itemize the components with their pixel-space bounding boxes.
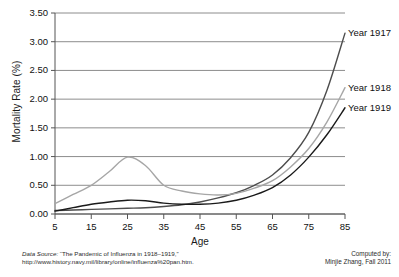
series-label-year-1917: Year 1917 (348, 27, 391, 38)
plot-area (0, 0, 399, 277)
mortality-rate-line-chart: Mortality Rate (%) Age 0.000.501.001.502… (0, 0, 399, 277)
series-label-year-1919: Year 1919 (348, 102, 391, 113)
series-label-year-1918: Year 1918 (348, 82, 391, 93)
data-source-prefix: Data Source: (22, 250, 58, 257)
credit-author: Minjie Zhang, Fall 2011 (325, 258, 391, 265)
data-source-note: Data Source: “The Pandemic of Influenza … (22, 250, 194, 265)
data-source-title: “The Pandemic of Influenza in 1918–1919,… (60, 250, 179, 257)
data-source-url: http://www.history.navy.mil/library/onli… (22, 258, 194, 265)
credit-label: Computed by: (351, 250, 391, 257)
credit-note: Computed by: Minjie Zhang, Fall 2011 (325, 250, 391, 266)
